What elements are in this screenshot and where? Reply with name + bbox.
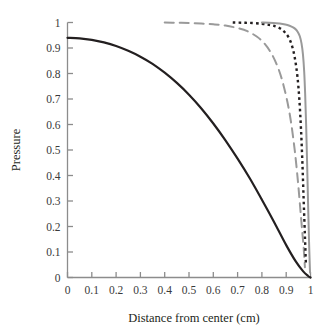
x-tick-label: 0.4 bbox=[158, 284, 173, 296]
y-tick-label: 0.1 bbox=[46, 246, 61, 258]
x-tick-label: 0.7 bbox=[230, 284, 245, 296]
y-tick-label: 1 bbox=[55, 17, 61, 29]
x-tick-label: 0.5 bbox=[182, 284, 197, 296]
x-axis-title: Distance from center (cm) bbox=[128, 311, 260, 325]
y-tick-label: 0.6 bbox=[46, 119, 61, 131]
y-tick-label: 0.9 bbox=[46, 42, 61, 54]
y-tick-label: 0.4 bbox=[46, 170, 61, 182]
x-tick-label: 1 bbox=[308, 284, 314, 296]
curve-2-gray-dashed bbox=[165, 23, 305, 268]
y-tick-label: 0 bbox=[55, 272, 61, 284]
y-axis-title: Pressure bbox=[9, 128, 23, 171]
y-tick-label: 0.3 bbox=[46, 195, 61, 207]
x-tick-label: 0.9 bbox=[279, 284, 294, 296]
y-tick-label: 0.7 bbox=[46, 93, 61, 105]
x-tick-label: 0.6 bbox=[206, 284, 221, 296]
curve-1-black-solid bbox=[68, 38, 311, 278]
x-tick-label: 0.3 bbox=[133, 284, 148, 296]
chart-figure: 00.10.20.30.40.50.60.70.80.9100.10.20.30… bbox=[0, 0, 334, 331]
y-tick-label: 0.8 bbox=[46, 68, 61, 80]
x-tick-label: 0.8 bbox=[255, 284, 270, 296]
x-tick-label: 0.1 bbox=[85, 284, 100, 296]
x-tick-label: 0.2 bbox=[109, 284, 124, 296]
y-tick-label: 0.5 bbox=[46, 144, 61, 156]
x-tick-label: 0 bbox=[65, 284, 71, 296]
chart-plot-area: 00.10.20.30.40.50.60.70.80.9100.10.20.30… bbox=[0, 0, 334, 331]
curve-3-black-dotted bbox=[233, 23, 306, 264]
y-tick-label: 0.2 bbox=[46, 221, 61, 233]
